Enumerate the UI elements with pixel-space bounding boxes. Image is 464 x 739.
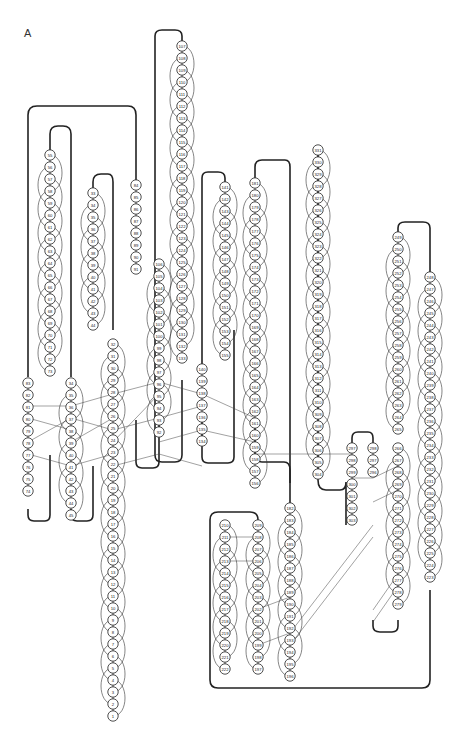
helix-hbond-arc [398, 496, 410, 532]
helix-hbond-arc [225, 307, 237, 343]
helix-hbond-arc [213, 271, 225, 307]
svg-text:232: 232 [427, 467, 435, 472]
svg-text:62: 62 [48, 237, 53, 242]
helix-hbond-arc [101, 428, 113, 464]
svg-text:207: 207 [255, 547, 263, 552]
svg-text:80: 80 [26, 417, 31, 422]
residue-node: 163 [250, 394, 260, 404]
residue-node: 173 [250, 274, 260, 284]
helix-hbond-arc [255, 303, 267, 339]
helix-hbond-arc [113, 344, 125, 380]
loop-connector [318, 145, 346, 525]
helix-hbond-arc [170, 154, 182, 190]
helix-hbond-arc [182, 166, 194, 202]
residue-node: 95 [154, 391, 164, 401]
helix-hbond-arc [93, 193, 105, 229]
residue-node: 135 [197, 424, 207, 434]
svg-text:314: 314 [315, 352, 323, 357]
svg-text:76: 76 [26, 465, 31, 470]
residue-node: 106 [154, 259, 164, 269]
residue-node: 217 [220, 604, 230, 614]
residue-node: 154 [220, 338, 230, 348]
svg-text:157: 157 [252, 469, 260, 474]
residue-node: 211 [220, 532, 230, 542]
svg-text:110: 110 [179, 80, 186, 85]
hbond-line [202, 430, 255, 442]
svg-text:313: 313 [315, 364, 323, 369]
helix-hbond-arc [290, 556, 302, 592]
svg-text:90: 90 [134, 255, 139, 260]
residue-node: 144 [220, 218, 230, 228]
residue-node: 68 [45, 306, 55, 316]
helix-hbond-arc [306, 234, 318, 270]
residue-node: 317 [313, 313, 323, 323]
loop-connector [373, 620, 398, 632]
residue-node: 188 [285, 575, 295, 585]
svg-text:104: 104 [156, 286, 164, 291]
svg-text:103: 103 [156, 298, 164, 303]
residue-node: 251 [393, 256, 403, 266]
helix-hbond-arc [182, 238, 194, 274]
helix-hbond-arc [159, 360, 171, 396]
residue-node: 309 [313, 409, 323, 419]
svg-text:39: 39 [91, 263, 96, 268]
svg-text:211: 211 [222, 535, 229, 540]
helix-hbond-arc [318, 318, 330, 354]
svg-text:38: 38 [91, 251, 96, 256]
residue-node: 128 [177, 293, 187, 303]
residue-node: 147 [220, 254, 230, 264]
svg-text:11: 11 [111, 594, 116, 599]
helix-hbond-arc [159, 288, 171, 324]
helix-hbond-arc [93, 241, 105, 277]
svg-text:156: 156 [252, 481, 260, 486]
residue-node: 277 [393, 575, 403, 585]
svg-text:27: 27 [111, 402, 116, 407]
svg-text:146: 146 [222, 245, 230, 250]
residue-node: 297 [347, 443, 357, 453]
svg-text:189: 189 [287, 590, 295, 595]
residue-node: 139 [197, 376, 207, 386]
helix-hbond-arc [38, 239, 50, 275]
residue-node: 230 [425, 488, 435, 498]
helix-hbond-arc [113, 656, 125, 692]
residue-node: 155 [220, 350, 230, 360]
svg-text:218: 218 [222, 619, 230, 624]
helix-hbond-arc [386, 369, 398, 405]
helix-hbond-arc [170, 106, 182, 142]
svg-text:121: 121 [179, 212, 187, 217]
residue-node: 241 [425, 356, 435, 366]
residue-node: 236 [425, 416, 435, 426]
helix-hbond-arc [182, 190, 194, 226]
residue-node: 60 [45, 210, 55, 220]
helix-hbond-arc [255, 327, 267, 363]
residue-node: 131 [177, 329, 187, 339]
svg-text:316: 316 [315, 328, 323, 333]
svg-text:215: 215 [222, 583, 230, 588]
residue-node: 275 [393, 551, 403, 561]
residue-node: 302 [347, 503, 357, 513]
residue-node: 189 [285, 587, 295, 597]
helix-hbond-arc [246, 633, 258, 669]
residue-node: 206 [253, 556, 263, 566]
strand-s12: 3313303293283273263253243233223213203193… [306, 145, 330, 479]
residue-node: 6 [108, 651, 118, 661]
residue-node: 226 [425, 536, 435, 546]
svg-text:83: 83 [26, 381, 31, 386]
svg-text:199: 199 [255, 643, 263, 648]
residue-node: 178 [250, 214, 260, 224]
svg-text:240: 240 [427, 371, 435, 376]
residue-node: 85 [131, 192, 141, 202]
helix-hbond-arc [213, 609, 225, 645]
helix-hbond-arc [38, 263, 50, 299]
helix-hbond-arc [430, 301, 442, 337]
helix-hbond-arc [255, 375, 267, 411]
svg-text:102: 102 [156, 310, 164, 315]
svg-text:268: 268 [395, 470, 403, 475]
svg-text:182: 182 [287, 506, 295, 511]
residue-node: 260 [393, 364, 403, 374]
svg-text:22: 22 [111, 462, 116, 467]
residue-node: 254 [393, 292, 403, 302]
svg-text:300: 300 [349, 482, 357, 487]
residue-node: 238 [425, 392, 435, 402]
residue-node: 243 [425, 332, 435, 342]
